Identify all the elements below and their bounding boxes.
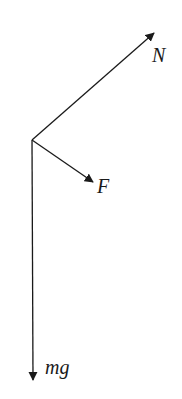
force-f-arrow — [32, 140, 93, 182]
force-n-label: N — [151, 44, 167, 66]
force-n-arrow — [32, 33, 154, 140]
force-mg-label: mg — [45, 356, 69, 379]
force-mg-arrow — [32, 140, 33, 380]
force-f-label: F — [96, 175, 110, 197]
free-body-diagram: N F mg — [0, 0, 182, 399]
